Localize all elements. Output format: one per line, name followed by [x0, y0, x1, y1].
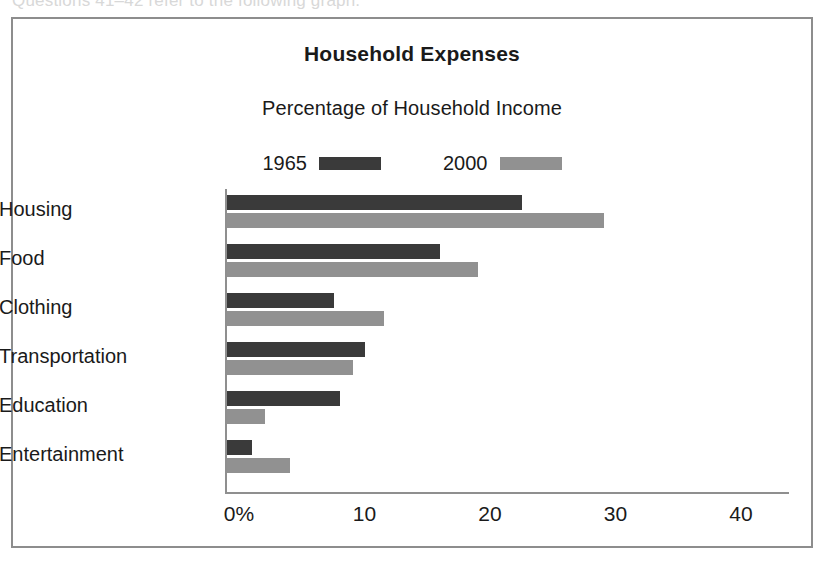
bar-2000-housing	[227, 213, 604, 228]
x-tick-20: 20	[478, 502, 501, 526]
plot-area: HousingFoodClothingTransportationEducati…	[13, 19, 811, 546]
x-tick-10: 10	[353, 502, 376, 526]
bar-2000-transportation	[227, 360, 353, 375]
bar-2000-clothing	[227, 311, 384, 326]
bar-rows: HousingFoodClothingTransportationEducati…	[13, 193, 811, 487]
bar-group	[227, 242, 478, 277]
cropped-page-text: Questions 41–42 refer to the following g…	[12, 0, 712, 11]
category-label-entertainment: Entertainment	[0, 443, 219, 466]
bar-2000-food	[227, 262, 478, 277]
bar-row: Food	[13, 242, 811, 291]
bar-2000-education	[227, 409, 265, 424]
x-axis-tick-labels: 0%10203040	[13, 502, 811, 532]
category-label-clothing: Clothing	[0, 296, 219, 319]
x-axis-line	[225, 492, 789, 494]
bar-group	[227, 438, 290, 473]
bar-group	[227, 291, 384, 326]
bar-2000-entertainment	[227, 458, 290, 473]
bar-row: Education	[13, 389, 811, 438]
x-tick-0: 0%	[224, 502, 254, 526]
category-label-education: Education	[0, 394, 219, 417]
bar-group	[227, 193, 604, 228]
category-label-transportation: Transportation	[0, 345, 219, 368]
category-label-housing: Housing	[0, 198, 219, 221]
bar-row: Housing	[13, 193, 811, 242]
bar-group	[227, 340, 365, 375]
bar-row: Transportation	[13, 340, 811, 389]
x-tick-30: 30	[604, 502, 627, 526]
bar-1965-entertainment	[227, 440, 252, 455]
bar-row: Entertainment	[13, 438, 811, 487]
chart-figure-frame: Household Expenses Percentage of Househo…	[11, 17, 813, 548]
bar-1965-food	[227, 244, 440, 259]
bar-1965-education	[227, 391, 340, 406]
bar-group	[227, 389, 340, 424]
bar-1965-clothing	[227, 293, 334, 308]
x-tick-40: 40	[729, 502, 752, 526]
category-label-food: Food	[0, 247, 219, 270]
bar-1965-housing	[227, 195, 522, 210]
bar-1965-transportation	[227, 342, 365, 357]
bar-row: Clothing	[13, 291, 811, 340]
